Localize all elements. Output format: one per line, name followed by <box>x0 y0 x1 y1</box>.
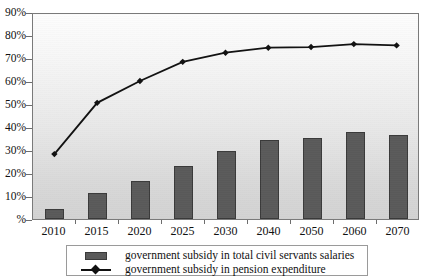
y-axis-tick-label: 30% <box>5 145 26 156</box>
line-data-point-marker <box>180 59 186 65</box>
line-data-point-marker <box>265 45 271 51</box>
legend-line-marker-icon <box>67 265 125 274</box>
x-axis-tick-label: 2020 <box>128 224 152 239</box>
y-axis-tick-label: 60% <box>5 76 26 87</box>
x-axis-tick-label: 2060 <box>343 224 367 239</box>
legend-bar-swatch <box>67 252 125 260</box>
y-axis-tick-label: 70% <box>5 53 26 64</box>
legend-item-label: government subsidy in pension expenditur… <box>125 263 326 276</box>
x-axis: 201020152020202520302040205020602070 <box>32 224 419 242</box>
y-axis-tick-label: 50% <box>5 99 26 110</box>
chart-legend: government subsidy in total civil servan… <box>66 245 368 276</box>
plot-area <box>32 13 419 220</box>
line-path <box>54 44 396 154</box>
line-data-point-marker <box>308 44 314 50</box>
line-data-point-marker <box>351 41 357 47</box>
x-axis-tick-label: 2025 <box>171 224 195 239</box>
x-axis-tick-label: 2010 <box>42 224 66 239</box>
x-axis-tick-label: 2040 <box>257 224 281 239</box>
line-data-point-marker <box>222 50 228 56</box>
y-axis-tick-label: % <box>16 214 26 225</box>
x-axis-tick-label: 2015 <box>85 224 109 239</box>
line-series <box>33 14 418 219</box>
legend-item-bar: government subsidy in total civil servan… <box>67 249 367 262</box>
chart-container: %10%20%30%40%50%60%70%80%90% 20102015202… <box>0 0 434 279</box>
y-axis-tick-label: 40% <box>5 122 26 133</box>
y-axis-tick-label: 80% <box>5 30 26 41</box>
y-axis-tick-label: 10% <box>5 191 26 202</box>
x-axis-tick-label: 2030 <box>214 224 238 239</box>
legend-item-line: government subsidy in pension expenditur… <box>67 263 367 276</box>
line-data-point-marker <box>137 78 143 84</box>
legend-item-label: government subsidy in total civil servan… <box>125 249 354 262</box>
line-data-point-marker <box>393 42 399 48</box>
y-axis-tick-label: 20% <box>5 168 26 179</box>
x-axis-tick-label: 2070 <box>386 224 410 239</box>
x-axis-tick-label: 2050 <box>300 224 324 239</box>
y-axis-tick-label: 90% <box>5 7 26 18</box>
